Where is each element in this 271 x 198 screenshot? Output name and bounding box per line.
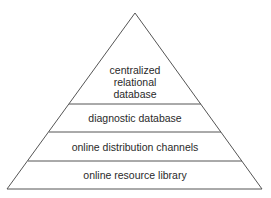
- level-1-label-line-1: centralized: [110, 64, 161, 76]
- pyramid-outline: [7, 13, 262, 189]
- level-3-label: online distribution channels: [72, 141, 199, 153]
- level-4-label: online resource library: [83, 169, 187, 181]
- pyramid-diagram: centralized relational database diagnost…: [0, 0, 271, 198]
- level-1-label-line-2: relational: [114, 76, 157, 88]
- level-1-label-line-3: database: [113, 88, 156, 100]
- level-2-label: diagnostic database: [88, 112, 182, 124]
